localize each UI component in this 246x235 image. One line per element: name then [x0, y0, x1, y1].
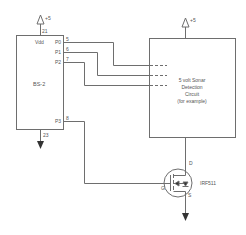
bs2-power-arrow-icon	[37, 15, 44, 24]
bs2-ground-pin: 23	[43, 132, 49, 138]
bs2-power-pin: 21	[42, 28, 48, 34]
pin-p3-number: 8	[66, 115, 69, 121]
body-diode-arrow-icon	[175, 181, 179, 186]
sonar-line-2: Detection	[181, 84, 202, 90]
sonar-line-3: Circuit	[185, 91, 200, 97]
bs2-vdd-label: Vdd	[35, 39, 44, 45]
pin-p1-name: P1	[55, 49, 61, 55]
p3-gate-wire	[63, 122, 166, 184]
mosfet-ground-arrow-icon	[182, 213, 189, 221]
sonar-line-4: (for example)	[177, 98, 207, 104]
bs2-label: BS-2	[33, 81, 45, 87]
pin-p0-name: P0	[55, 39, 61, 45]
pin-p1-number: 6	[66, 46, 69, 52]
mosfet-drain-label: D	[189, 160, 193, 166]
drain-lead	[174, 170, 186, 176]
sonar-power-arrow-icon	[182, 18, 189, 27]
mosfet-source-label: S	[188, 192, 192, 198]
pin-p2-number: 7	[66, 56, 69, 62]
sonar-power-label: +5	[190, 17, 196, 23]
mosfet-gate-label: G	[161, 185, 165, 191]
pin-p3-name: P3	[55, 118, 61, 124]
p1-wire	[63, 53, 149, 76]
bs2-power-label: +5	[45, 15, 51, 21]
bs2-ground-arrow-icon	[37, 141, 44, 149]
sonar-line-1: 5 volt Sonar	[179, 77, 206, 83]
zener-diode-icon	[183, 182, 188, 186]
pin-p0-number: 5	[66, 36, 69, 42]
pin-p2-name: P2	[55, 59, 61, 65]
mosfet-part-label: IRF511	[200, 180, 216, 186]
circuit-diagram: +5 21 Vdd BS-2 P0 5 P1 6 P2 7 P3 8 23 +5…	[0, 0, 246, 235]
